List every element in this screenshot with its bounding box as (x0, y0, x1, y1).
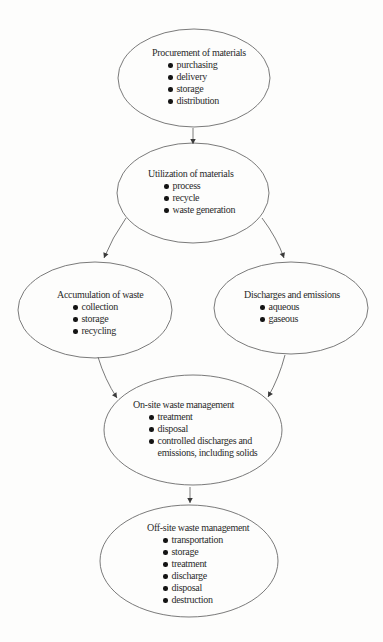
bullet-dot-icon (73, 317, 78, 322)
bullet-item: disposal (147, 582, 271, 594)
bullet-label: destruction (172, 594, 213, 606)
node-onsite: On-site waste management treatment dispo… (133, 399, 269, 459)
node-title: Accumulation of waste (57, 289, 175, 301)
bullet-item: recycling (57, 325, 175, 337)
bullet-label: discharge (172, 570, 207, 582)
bullet-dot-icon (163, 550, 168, 555)
bullet-dot-icon (164, 196, 169, 201)
bullet-label: storage (177, 83, 204, 95)
edge-utilization-accumulation (104, 218, 126, 258)
node-accumulation: Accumulation of waste collection storage… (57, 289, 175, 337)
bullet-label: aqueous (269, 301, 300, 313)
node-title: Off-site waste management (147, 522, 271, 534)
bullet-label: distribution (177, 95, 220, 107)
bullet-list: purchasing delivery storage distribution (152, 59, 270, 107)
bullet-item: collection (57, 301, 175, 313)
bullet-dot-icon (163, 574, 168, 579)
bullet-label: waste generation (173, 204, 236, 216)
bullet-item: distribution (152, 95, 270, 107)
bullet-item: purchasing (152, 59, 270, 71)
bullet-dot-icon (260, 305, 265, 310)
edge-accumulation-onsite (98, 357, 117, 398)
bullet-label: storage (172, 546, 199, 558)
bullet-list: collection storage recycling (57, 301, 175, 337)
bullet-dot-icon (163, 538, 168, 543)
bullet-label: treatment (158, 411, 193, 423)
bullet-list: process recycle waste generation (148, 180, 266, 216)
node-offsite: Off-site waste management transportation… (147, 522, 271, 606)
bullet-item: waste generation (148, 204, 266, 216)
bullet-item: storage (152, 83, 270, 95)
bullet-dot-icon (149, 415, 154, 420)
bullet-item: gaseous (244, 313, 362, 325)
bullet-dot-icon (163, 562, 168, 567)
node-title: Utilization of materials (148, 168, 266, 180)
node-utilization: Utilization of materials process recycle… (148, 168, 266, 216)
bullet-dot-icon (168, 99, 173, 104)
bullet-dot-icon (163, 586, 168, 591)
bullet-list: aqueous gaseous (244, 301, 362, 325)
bullet-label: process (173, 180, 201, 192)
node-title: On-site waste management (133, 399, 269, 411)
bullet-label: purchasing (177, 59, 218, 71)
bullet-item: destruction (147, 594, 271, 606)
bullet-item: transportation (147, 534, 271, 546)
bullet-label: controlled discharges and emissions, inc… (158, 435, 270, 459)
bullet-item: storage (147, 546, 271, 558)
bullet-label: transportation (172, 534, 223, 546)
bullet-label: gaseous (269, 313, 299, 325)
bullet-label: disposal (158, 423, 188, 435)
bullet-dot-icon (168, 87, 173, 92)
bullet-dot-icon (164, 184, 169, 189)
bullet-item: disposal (133, 423, 269, 435)
bullet-item: storage (57, 313, 175, 325)
node-discharges: Discharges and emissions aqueous gaseous (244, 289, 362, 325)
bullet-label: storage (82, 313, 109, 325)
bullet-label: recycling (82, 325, 117, 337)
bullet-label: delivery (177, 71, 207, 83)
bullet-item: delivery (152, 71, 270, 83)
bullet-item: controlled discharges and emissions, inc… (133, 435, 269, 459)
node-title: Discharges and emissions (244, 289, 362, 301)
bullet-item: treatment (147, 558, 271, 570)
bullet-dot-icon (73, 305, 78, 310)
edge-utilization-discharges (262, 218, 284, 258)
bullet-label: collection (82, 301, 118, 313)
bullet-dot-icon (164, 208, 169, 213)
bullet-item: aqueous (244, 301, 362, 313)
bullet-dot-icon (168, 63, 173, 68)
edge-discharges-onsite (268, 355, 285, 397)
bullet-dot-icon (260, 317, 265, 322)
bullet-label: disposal (172, 582, 202, 594)
bullet-list: transportation storage treatment dischar… (147, 534, 271, 606)
bullet-dot-icon (163, 598, 168, 603)
node-title: Procurement of materials (152, 47, 270, 59)
bullet-dot-icon (149, 427, 154, 432)
bullet-dot-icon (168, 75, 173, 80)
bullet-item: treatment (133, 411, 269, 423)
bullet-label: recycle (173, 192, 200, 204)
bullet-item: discharge (147, 570, 271, 582)
bullet-item: process (148, 180, 266, 192)
node-procurement: Procurement of materials purchasing deli… (152, 47, 270, 107)
bullet-list: treatment disposal controlled discharges… (133, 411, 269, 459)
bullet-item: recycle (148, 192, 266, 204)
bullet-label: treatment (172, 558, 207, 570)
flowchart-canvas: Procurement of materials purchasing deli… (0, 0, 383, 642)
bullet-dot-icon (73, 329, 78, 334)
bullet-dot-icon (149, 439, 154, 444)
